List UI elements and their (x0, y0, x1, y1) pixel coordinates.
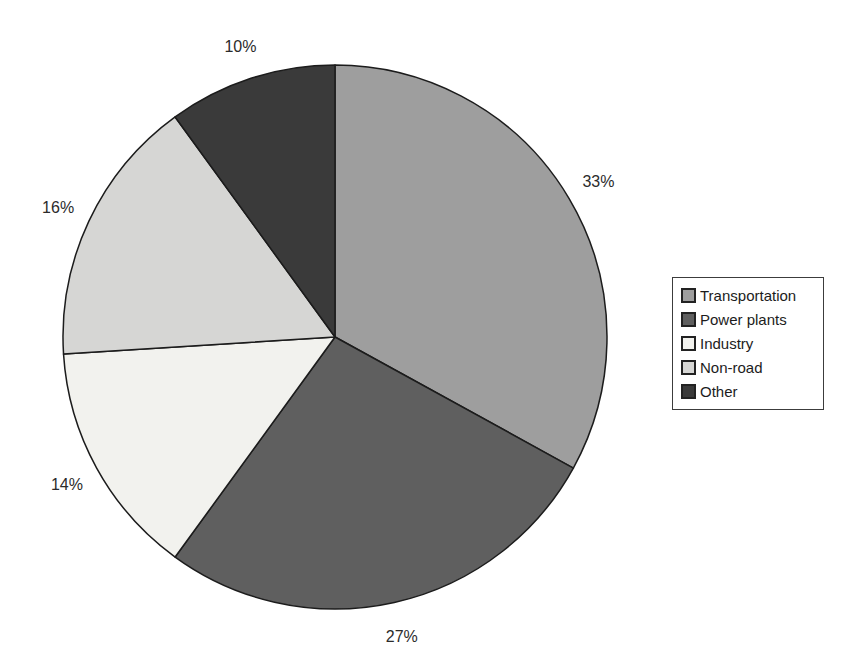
legend-label-non-road: Non-road (700, 360, 763, 375)
legend-item-other: Other (681, 384, 815, 399)
pie-data-label-other: 10% (224, 38, 256, 55)
pie-data-label-transportation: 33% (582, 173, 614, 190)
legend-swatch-industry (681, 336, 696, 351)
pie-data-label-industry: 14% (51, 476, 83, 493)
legend-item-transportation: Transportation (681, 288, 815, 303)
pie-data-label-power-plants: 27% (386, 628, 418, 645)
legend-label-power-plants: Power plants (700, 312, 787, 327)
legend-label-other: Other (700, 384, 738, 399)
legend-swatch-transportation (681, 288, 696, 303)
legend-item-industry: Industry (681, 336, 815, 351)
legend-label-transportation: Transportation (700, 288, 796, 303)
legend-label-industry: Industry (700, 336, 753, 351)
legend-swatch-non-road (681, 360, 696, 375)
legend: Transportation Power plants Industry Non… (672, 277, 824, 410)
legend-swatch-other (681, 384, 696, 399)
legend-item-non-road: Non-road (681, 360, 815, 375)
pie-data-label-non-road: 16% (42, 199, 74, 216)
legend-swatch-power-plants (681, 312, 696, 327)
legend-item-power-plants: Power plants (681, 312, 815, 327)
chart-canvas: 33%27%14%16%10% Transportation Power pla… (0, 0, 857, 672)
